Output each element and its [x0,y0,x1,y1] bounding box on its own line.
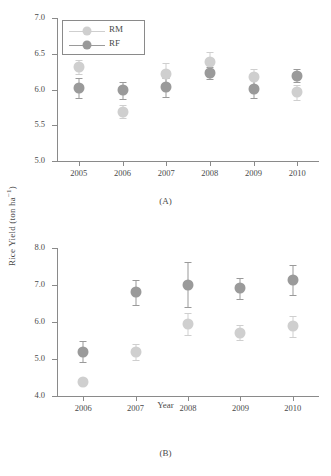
y-axis-line [57,248,58,396]
data-point-rm [235,327,246,338]
y-axis-tick-label: 7.0 [15,279,45,289]
data-point-rm [287,321,298,332]
data-point-rf [73,83,84,94]
x-axis-tick-label: 2010 [277,168,317,178]
error-bar-cap [294,100,301,101]
error-bar-cap [250,98,257,99]
x-axis-tick [123,162,124,166]
legend-item-rm: RM [67,24,141,38]
y-axis-label-text: Rice Yield (ton ha [7,197,17,266]
x-axis-tick-label: 2008 [190,168,230,178]
x-axis-tick [254,162,255,166]
y-axis-tick [52,248,57,249]
data-point-rm [117,106,128,117]
y-axis-tick-label: 8.0 [15,242,45,252]
y-axis-tick-label: 6.5 [15,48,45,58]
error-bar-cap [119,118,126,119]
data-point-rm [183,319,194,330]
y-axis-tick-label: 6.0 [15,84,45,94]
panel-b: 4.05.06.07.08.020062007200820092010 [57,248,319,396]
legend-label: RM [109,24,123,34]
panel-a-caption: (A) [0,196,331,206]
y-axis-tick-label: 4.0 [15,390,45,400]
error-bar-cap [289,337,296,338]
y-axis-tick-label: 5.0 [15,155,45,165]
data-point-rm [204,57,215,68]
data-point-rf [248,83,259,94]
data-point-rm [248,72,259,83]
panel-b-caption: (B) [0,448,331,458]
legend-marker [83,41,92,50]
x-axis-tick [210,162,211,166]
legend-marker [83,27,92,36]
y-axis-tick [52,18,57,19]
data-point-rf [292,70,303,81]
error-bar-cap [185,262,192,263]
y-axis-tick [52,161,57,162]
error-bar-cap [132,344,139,345]
data-point-rf [117,85,128,96]
error-bar-cap [237,278,244,279]
error-bar-cap [80,362,87,363]
y-axis-tick [52,359,57,360]
x-axis-title: Year [0,400,331,410]
x-axis-tick-label: 2006 [103,168,143,178]
x-axis-tick [297,162,298,166]
error-bar-cap [185,335,192,336]
error-bar-cap [132,360,139,361]
y-axis-tick [52,125,57,126]
error-bar-cap [289,295,296,296]
data-point-rm [161,68,172,79]
error-bar-cap [237,325,244,326]
y-axis-tick [52,322,57,323]
error-bar-cap [132,280,139,281]
data-point-rf [130,287,141,298]
error-bar-cap [237,299,244,300]
x-axis-tick-label: 2007 [146,168,186,178]
y-axis-tick [52,285,57,286]
error-bar-cap [289,316,296,317]
x-axis-tick-label: 2009 [234,168,274,178]
x-axis-tick [79,162,80,166]
y-axis-tick-label: 6.0 [15,316,45,326]
y-axis-tick-label: 7.0 [15,12,45,22]
error-bar-cap [163,97,170,98]
error-bar-cap [163,63,170,64]
x-axis-tick-label: 2005 [59,168,99,178]
legend: RMRF [62,20,145,55]
error-bar-cap [75,78,82,79]
y-axis-tick [52,396,57,397]
legend-item-rf: RF [67,38,141,52]
error-bar-cap [75,98,82,99]
data-point-rf [235,283,246,294]
x-axis-tick [166,162,167,166]
data-point-rm [73,62,84,73]
data-point-rf [78,346,89,357]
data-point-rf [287,274,298,285]
error-bar-cap [132,305,139,306]
error-bar-cap [206,79,213,80]
legend-label: RF [109,38,120,48]
error-bar-cap [119,82,126,83]
error-bar-cap [294,82,301,83]
y-axis-tick [52,90,57,91]
error-bar-cap [250,69,257,70]
y-axis-line [57,18,58,161]
error-bar-cap [185,313,192,314]
figure-rice-yield: Rice Yield (ton ha−1) 5.05.56.06.57.0200… [0,0,331,476]
data-point-rm [292,87,303,98]
error-bar-cap [119,99,126,100]
data-point-rf [161,82,172,93]
y-axis-tick [52,54,57,55]
error-bar-cap [185,307,192,308]
panel-a: 5.05.56.06.57.0200520062007200820092010R… [57,18,319,161]
data-point-rm [78,376,89,387]
data-point-rf [183,279,194,290]
error-bar-cap [206,52,213,53]
y-axis-tick-label: 5.5 [15,119,45,129]
error-bar-cap [75,74,82,75]
y-axis-tick-label: 5.0 [15,353,45,363]
error-bar-cap [80,341,87,342]
y-axis-label-paren: ) [7,186,17,189]
error-bar-cap [237,340,244,341]
